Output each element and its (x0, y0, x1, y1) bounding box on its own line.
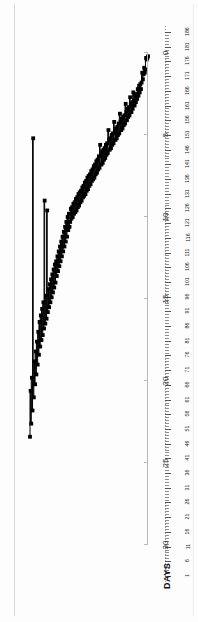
value-tick (144, 298, 148, 299)
axis-title: DAYS (162, 563, 172, 589)
data-point (83, 181, 87, 185)
data-point (94, 172, 98, 176)
data-point (105, 153, 109, 157)
data-point (31, 136, 35, 140)
data-point (37, 353, 41, 357)
plot-inner: 302520151050 DAYS (24, 31, 174, 591)
data-point (62, 230, 66, 234)
data-point (112, 120, 116, 124)
data-point (118, 112, 122, 116)
data-point (40, 307, 44, 311)
value-tick (144, 216, 148, 217)
value-tick-label: 5 (161, 133, 170, 137)
data-point (124, 110, 128, 114)
data-point (39, 314, 43, 318)
data-point (129, 102, 133, 106)
data-point (29, 389, 33, 393)
data-point (94, 159, 98, 163)
data-point (61, 250, 65, 254)
data-point (71, 202, 75, 206)
data-point (45, 209, 49, 213)
data-point (44, 294, 48, 298)
data-point (117, 122, 121, 126)
data-point (110, 133, 114, 137)
data-point (67, 212, 71, 216)
data-point (38, 345, 42, 349)
value-tick-label: 30 (161, 541, 170, 550)
data-point (81, 195, 85, 199)
data-point (108, 148, 112, 152)
data-point (102, 158, 106, 162)
value-tick-label: 25 (161, 459, 170, 468)
data-point (68, 220, 72, 224)
data-point (52, 268, 56, 272)
data-point (35, 340, 39, 344)
data-point (64, 240, 68, 244)
value-tick (144, 380, 148, 381)
data-point (66, 215, 70, 219)
value-tick (144, 462, 148, 463)
data-point (59, 240, 63, 244)
data-point (46, 310, 50, 314)
data-point (96, 168, 100, 172)
data-point (61, 235, 65, 239)
value-tick-label: 10 (161, 213, 170, 222)
data-point (122, 123, 126, 127)
data-point (98, 143, 102, 147)
data-point (131, 107, 135, 111)
data-point (33, 359, 37, 363)
data-point (140, 71, 144, 75)
data-point (36, 363, 40, 367)
data-point (54, 259, 58, 263)
data-point (63, 225, 67, 229)
data-point (90, 179, 94, 183)
data-point (119, 128, 123, 132)
data-point (114, 127, 118, 131)
data-point (42, 327, 46, 331)
data-point (133, 94, 137, 98)
series-svg (24, 31, 174, 591)
data-point (34, 350, 38, 354)
data-point (85, 189, 89, 193)
data-point (36, 330, 40, 334)
data-point (41, 333, 45, 337)
data-point (41, 300, 45, 304)
data-point (68, 225, 72, 229)
data-point (28, 435, 32, 439)
data-point (124, 102, 128, 106)
data-point (48, 282, 52, 286)
figure-container: 1611162126313641465156616671768186919610… (0, 0, 198, 622)
data-point (142, 66, 146, 70)
data-point (120, 117, 124, 121)
data-point (43, 322, 47, 326)
plot-rotation-wrapper: 302520151050 DAYS (0, 0, 198, 622)
data-point (87, 184, 91, 188)
value-tick (144, 544, 148, 545)
data-point (77, 192, 81, 196)
data-point (50, 295, 54, 299)
data-point (64, 220, 68, 224)
data-point (100, 163, 104, 167)
data-point (32, 396, 36, 400)
data-point (40, 338, 44, 342)
data-point (86, 176, 90, 180)
data-point (76, 205, 80, 209)
data-point (107, 128, 111, 132)
data-point (43, 199, 47, 203)
data-point (57, 264, 61, 268)
data-point (29, 422, 33, 426)
data-point (130, 110, 134, 114)
data-point (72, 212, 76, 216)
plot-area: 302520151050 DAYS (24, 31, 174, 591)
data-point (56, 269, 60, 273)
data-point (141, 77, 145, 81)
data-point (126, 115, 130, 119)
data-point (70, 217, 74, 221)
data-point (34, 373, 38, 377)
data-point (51, 291, 55, 295)
data-point (89, 169, 93, 173)
data-point (100, 150, 104, 154)
value-tick (144, 52, 148, 53)
data-point (78, 200, 82, 204)
data-point (74, 197, 78, 201)
